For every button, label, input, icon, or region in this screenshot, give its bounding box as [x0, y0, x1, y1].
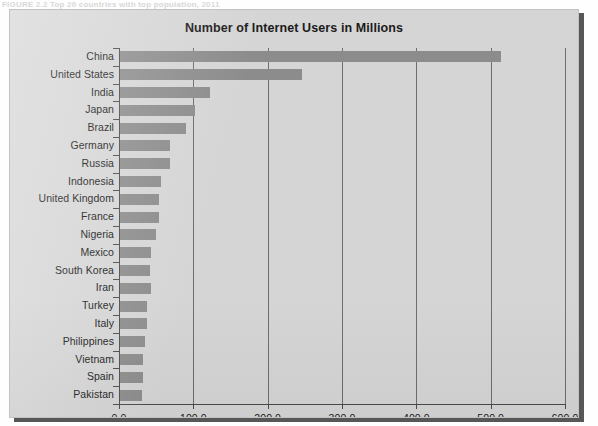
gridline	[193, 48, 194, 404]
y-axis-tick-label: Japan	[85, 103, 114, 115]
y-axis-tick	[113, 368, 119, 369]
y-axis-tick-label: Indonesia	[68, 175, 114, 187]
bar	[120, 372, 143, 383]
y-axis-tick	[113, 119, 119, 120]
x-axis-tick-label: 300.0	[312, 412, 372, 418]
x-axis-tick	[491, 404, 492, 409]
y-axis-tick-label: China	[86, 50, 114, 62]
bar	[120, 390, 142, 401]
x-axis-tick-label: 200.0	[238, 412, 298, 418]
y-axis-tick-label: Pakistan	[73, 388, 114, 400]
chart-panel: Number of Internet Users in Millions Chi…	[9, 9, 579, 418]
gridline	[416, 48, 417, 404]
y-axis-tick-label: Brazil	[87, 121, 114, 133]
x-axis-tick	[342, 404, 343, 409]
bar	[120, 87, 210, 98]
y-axis-tick	[113, 84, 119, 85]
y-axis-tick-label: South Korea	[55, 264, 114, 276]
y-axis-tick	[113, 279, 119, 280]
y-axis-tick	[113, 155, 119, 156]
bar	[120, 247, 151, 258]
y-axis-tick-label: Italy	[94, 317, 114, 329]
y-axis-tick	[113, 333, 119, 334]
y-axis-tick	[113, 297, 119, 298]
figure-page: FIGURE 2.2 Top 20 countries with top pop…	[0, 0, 598, 426]
bar	[120, 105, 195, 116]
gridline	[268, 48, 269, 404]
y-axis-tick-label: Nigeria	[80, 228, 114, 240]
y-axis-tick-label: United Kingdom	[39, 192, 114, 204]
y-axis-tick-label: Russia	[82, 157, 114, 169]
bar	[120, 301, 147, 312]
bar	[120, 212, 159, 223]
x-axis-tick-label: 500.0	[461, 412, 521, 418]
y-axis-tick-label: Philippines	[63, 335, 114, 347]
y-axis-tick-label: United States	[50, 68, 114, 80]
y-axis-tick-label: Mexico	[80, 246, 114, 258]
y-axis-tick	[113, 137, 119, 138]
x-axis-tick	[193, 404, 194, 409]
x-axis-tick-label: 600.0	[535, 412, 579, 418]
y-axis-tick	[113, 226, 119, 227]
y-axis-tick	[113, 66, 119, 67]
gridline	[565, 48, 566, 404]
y-axis-line	[119, 48, 120, 404]
y-axis-tick-label: France	[81, 210, 114, 222]
bar	[120, 336, 145, 347]
bar	[120, 123, 186, 134]
bar	[120, 158, 170, 169]
y-axis-tick-label: Spain	[87, 370, 114, 382]
bar	[120, 354, 143, 365]
bar	[120, 69, 302, 80]
gridline	[342, 48, 343, 404]
x-axis-tick	[565, 404, 566, 409]
y-axis-tick	[113, 315, 119, 316]
y-axis-tick	[113, 386, 119, 387]
x-axis-tick	[416, 404, 417, 409]
x-axis-tick	[119, 404, 120, 409]
category-axis-labels: ChinaUnited StatesIndiaJapanBrazilGerman…	[10, 48, 114, 404]
x-axis-tick-label: 0.0	[89, 412, 149, 418]
y-axis-tick-label: Germany	[70, 139, 114, 151]
y-axis-tick-label: India	[91, 86, 114, 98]
y-axis-tick	[113, 351, 119, 352]
y-axis-tick-label: Vietnam	[75, 353, 114, 365]
bar	[120, 265, 150, 276]
x-axis-tick-label: 100.0	[163, 412, 223, 418]
y-axis-tick	[113, 101, 119, 102]
x-axis-tick	[268, 404, 269, 409]
x-axis-tick-label: 400.0	[386, 412, 446, 418]
y-axis-tick	[113, 190, 119, 191]
bar	[120, 283, 151, 294]
y-axis-tick	[113, 244, 119, 245]
bar	[120, 51, 501, 62]
y-axis-tick	[113, 173, 119, 174]
y-axis-tick-label: Iran	[96, 281, 114, 293]
plot-area: 0.0100.0200.0300.0400.0500.0600.0	[119, 48, 565, 404]
bar	[120, 140, 170, 151]
y-axis-tick	[113, 208, 119, 209]
bar	[120, 229, 156, 240]
y-axis-tick	[113, 48, 119, 49]
bar	[120, 318, 147, 329]
y-axis-tick-label: Turkey	[82, 299, 114, 311]
figure-caption-fragment: FIGURE 2.2 Top 20 countries with top pop…	[0, 0, 598, 9]
chart-title: Number of Internet Users in Millions	[10, 21, 578, 35]
y-axis-tick	[113, 262, 119, 263]
y-axis-tick	[113, 404, 119, 405]
gridline	[491, 48, 492, 404]
bar	[120, 194, 159, 205]
bar	[120, 176, 161, 187]
